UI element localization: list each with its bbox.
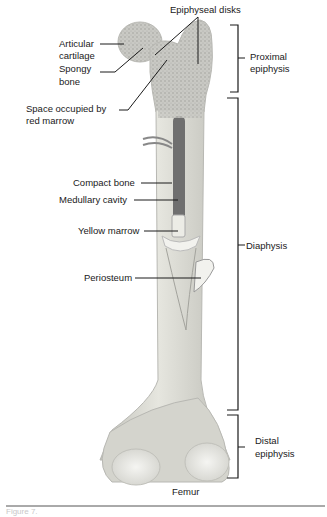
label-red-marrow-1: Space occupied by: [26, 103, 106, 115]
label-distal-2: epiphysis: [255, 448, 295, 460]
label-proximal-2: epiphysis: [250, 63, 290, 75]
diaphysis-bracket: [227, 98, 245, 410]
figure-title: Femur: [172, 486, 199, 498]
figure-caption: Figure 7.: [6, 507, 38, 516]
label-articular-cartilage-1: Articular: [59, 38, 94, 50]
label-periosteum: Periosteum: [84, 272, 132, 284]
label-articular-cartilage-2: cartilage: [59, 50, 95, 62]
label-proximal-1: Proximal: [250, 51, 287, 63]
yellow-marrow: [172, 215, 185, 237]
red-marrow-cavity: [173, 116, 185, 222]
label-distal-1: Distal: [255, 435, 279, 447]
label-yellow-marrow: Yellow marrow: [78, 225, 139, 237]
label-spongy-bone-2: bone: [59, 76, 80, 88]
label-spongy-bone-1: Spongy: [59, 63, 91, 75]
label-red-marrow-2: red marrow: [26, 115, 74, 127]
proximal-bracket: [230, 25, 245, 92]
spongy-bone-region: [158, 96, 204, 118]
region-brackets: [227, 25, 245, 478]
label-epiphyseal-disks: Epiphyseal disks: [170, 4, 241, 16]
label-compact-bone: Compact bone: [73, 177, 135, 189]
medial-condyle: [112, 449, 160, 485]
label-medullary-cavity: Medullary cavity: [59, 194, 127, 206]
periosteum-flap: [194, 259, 214, 292]
lateral-condyle: [185, 443, 229, 481]
distal-bracket: [227, 415, 245, 478]
label-diaphysis: Diaphysis: [246, 240, 287, 252]
